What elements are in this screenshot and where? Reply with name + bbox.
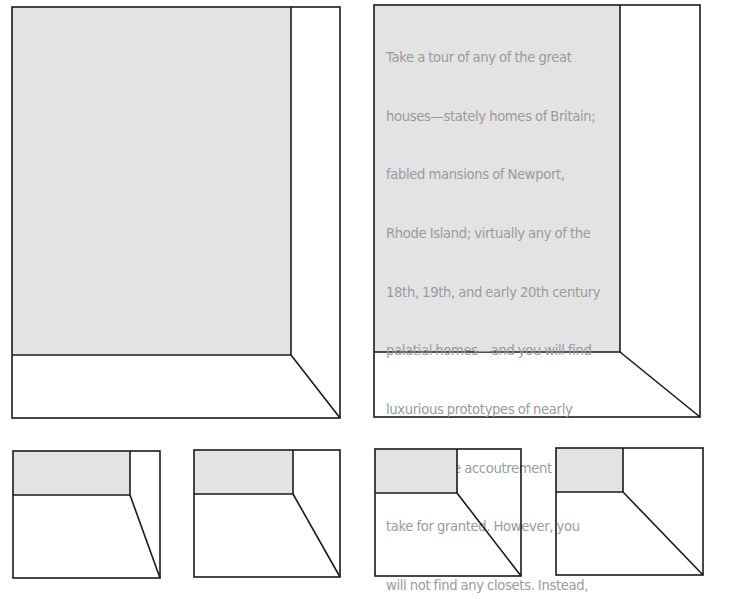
back-panel <box>556 448 623 492</box>
cabinet-frame-drawing-small-4 <box>0 0 733 599</box>
perspective-diagonal-line <box>623 492 703 575</box>
